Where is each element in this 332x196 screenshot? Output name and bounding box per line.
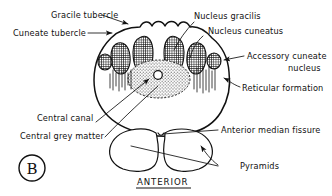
label-cuneate-tubercle: Cuneate tubercle — [13, 28, 86, 38]
label-nucleus-cuneatus: Nucleus cuneatus — [208, 26, 283, 36]
anterior-caption-group: ANTERIOR — [136, 177, 191, 188]
label-reticular-formation: Reticular formation — [242, 83, 323, 93]
central-grey-matter-group — [128, 60, 190, 98]
label-anterior-median-fissure: Anterior median fissure — [221, 125, 321, 135]
label-central-grey-matter: Central grey matter — [20, 131, 104, 141]
nucleus-cuneatus-left-shape — [111, 43, 130, 74]
label-accessory-cuneate-nucleus-line2: nucleus — [288, 63, 321, 73]
label-pyramids: Pyramids — [240, 161, 279, 171]
pyramid-right-shape — [164, 129, 213, 171]
label-central-canal: Central canal — [37, 113, 93, 123]
accessory-cuneate-nucleus-left-shape — [98, 54, 112, 70]
panel-label-text: B — [26, 160, 37, 178]
accessory-cuneate-nucleus-right-shape — [207, 53, 221, 69]
figure-page: Gracile tubercle Cuneate tubercle Nucleu… — [0, 0, 332, 196]
anterior-caption: ANTERIOR — [137, 177, 188, 187]
pyramids-group — [110, 129, 213, 171]
label-gracile-tubercle: Gracile tubercle — [51, 10, 118, 20]
panel-label-group: B — [19, 155, 45, 181]
label-accessory-cuneate-nucleus-line1: Accessory cuneate — [247, 51, 327, 61]
anatomy-diagram: Gracile tubercle Cuneate tubercle Nucleu… — [0, 0, 332, 196]
label-nucleus-gracilis: Nucleus gracilis — [194, 11, 261, 21]
central-canal-shape — [154, 71, 163, 80]
